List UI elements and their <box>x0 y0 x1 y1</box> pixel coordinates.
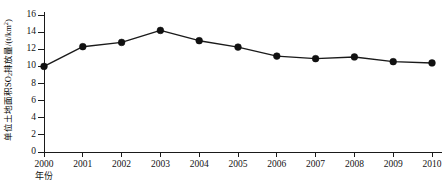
data-point <box>235 44 242 51</box>
data-point <box>157 27 164 34</box>
data-point <box>41 63 48 70</box>
so2-emission-line-chart: 单位土地面积SO2排放量/(t/km2) 0246810121416 20002… <box>0 0 448 196</box>
data-point <box>429 60 436 67</box>
series-layer <box>0 0 448 196</box>
x-axis-title: 年份 <box>24 172 64 181</box>
data-point <box>390 58 397 65</box>
series-markers <box>41 27 436 70</box>
data-point <box>351 54 358 61</box>
data-point <box>196 37 203 44</box>
data-point <box>312 55 319 62</box>
data-point <box>79 43 86 50</box>
data-point <box>118 39 125 46</box>
data-point <box>273 53 280 60</box>
